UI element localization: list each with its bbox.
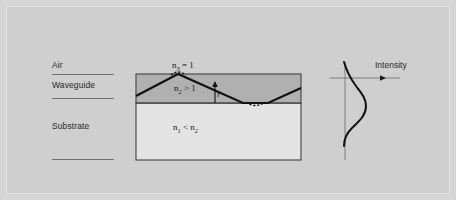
intensity-axis-label: Intensity xyxy=(375,60,407,70)
angle-gamma-label: γ xyxy=(217,88,220,97)
figure-root: Air Waveguide Substrate n3 = 1 n2 > 1 n1 xyxy=(0,0,456,200)
intensity-curve xyxy=(344,62,366,146)
waveguide-index-label: n2 > 1 xyxy=(174,83,196,95)
diagram-canvas xyxy=(0,0,456,200)
substrate-rect xyxy=(136,103,301,160)
air-index-label: n3 = 1 xyxy=(172,60,194,72)
substrate-index-label: n1 < n2 xyxy=(173,122,198,134)
intensity-axis-arrowhead xyxy=(380,75,386,81)
